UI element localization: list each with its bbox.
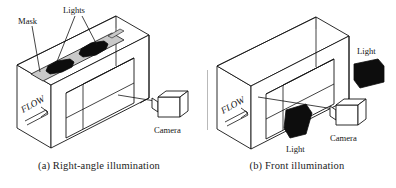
camera-label: Camera: [154, 125, 181, 135]
caption-panel-a: (a) Right-angle illumination: [0, 160, 198, 171]
panel-right-angle-illumination: FLOW Mask Lights Camera (a) Right-angle …: [0, 0, 198, 188]
light-lower-label: Light: [286, 144, 305, 154]
light-upper-label: Light: [357, 46, 376, 56]
camera-body: [152, 91, 188, 117]
diagram-front-illumination: FLOW Light Light Camera: [198, 0, 396, 160]
mask-label: Mask: [18, 16, 38, 26]
camera-label: Camera: [330, 133, 357, 143]
light-block-lower: [284, 104, 312, 138]
panel-front-illumination: FLOW Light Light Camera (b) Front illumi…: [198, 0, 396, 188]
caption-panel-b: (b) Front illumination: [198, 160, 396, 171]
light-block-upper: [354, 59, 384, 88]
figure-root: FLOW Mask Lights Camera (a) Right-angle …: [0, 0, 396, 188]
diagram-right-angle-illumination: FLOW Mask Lights Camera: [0, 0, 198, 160]
lights-label: Lights: [63, 5, 86, 15]
